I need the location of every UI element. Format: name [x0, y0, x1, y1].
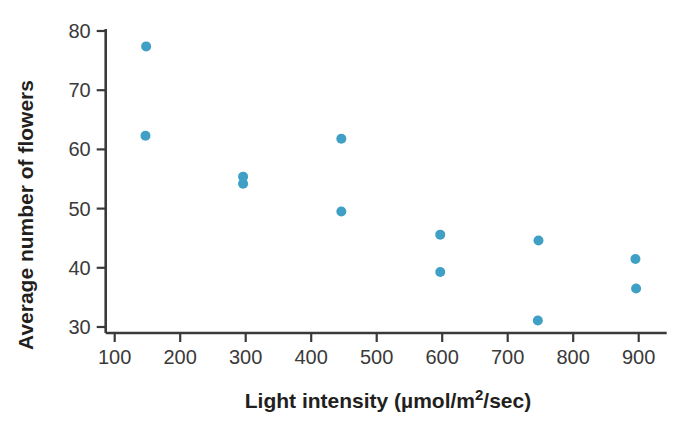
- data-point: [533, 236, 543, 246]
- y-tick-label: 80: [68, 20, 90, 42]
- x-tick-label: 300: [229, 346, 262, 368]
- x-tick-label: 600: [426, 346, 459, 368]
- x-axis-title-before: Light intensity (µmol/m: [245, 389, 475, 412]
- data-points-group: [140, 41, 641, 325]
- x-tick-label: 400: [295, 346, 328, 368]
- x-tick-label: 500: [360, 346, 393, 368]
- x-tick-label: 200: [164, 346, 197, 368]
- data-point: [141, 41, 151, 51]
- x-axis-title: Light intensity (µmol/m2/sec): [245, 386, 531, 412]
- x-tick-label: 100: [98, 346, 131, 368]
- x-axis: 100200300400500600700800900: [98, 333, 667, 368]
- y-tick-label: 40: [68, 257, 90, 279]
- y-axis: 304050607080: [68, 20, 105, 338]
- x-tick-label: 800: [557, 346, 590, 368]
- data-point: [435, 230, 445, 240]
- y-tick-label: 30: [68, 316, 90, 338]
- data-point: [238, 179, 248, 189]
- y-tick-label: 50: [68, 198, 90, 220]
- data-point: [630, 254, 640, 264]
- data-point: [140, 131, 150, 141]
- x-axis-title-after: /sec): [483, 389, 531, 412]
- data-point: [336, 134, 346, 144]
- chart-canvas: Average number of flowers Light intensit…: [0, 0, 675, 424]
- y-tick-label: 70: [68, 79, 90, 101]
- data-point: [631, 284, 641, 294]
- data-point: [435, 267, 445, 277]
- data-point: [336, 207, 346, 217]
- x-tick-label: 900: [622, 346, 655, 368]
- x-tick-label: 700: [491, 346, 524, 368]
- scatter-plot-figure: Average number of flowers Light intensit…: [0, 0, 675, 424]
- y-axis-title: Average number of flowers: [14, 80, 37, 350]
- data-point: [533, 315, 543, 325]
- x-axis-title-superscript: 2: [475, 386, 483, 403]
- y-tick-label: 60: [68, 138, 90, 160]
